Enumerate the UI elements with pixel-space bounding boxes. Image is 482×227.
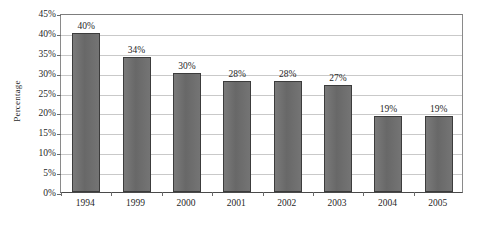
bar[interactable] [223, 81, 251, 192]
bar[interactable] [274, 81, 302, 192]
y-axis-tick-label: 45% [18, 9, 56, 19]
y-axis-tick-mark [57, 75, 61, 76]
x-axis-tick-label: 2005 [412, 198, 464, 209]
bar[interactable] [123, 57, 151, 192]
y-axis-tick-label: 5% [18, 168, 56, 178]
bar-value-label: 28% [264, 69, 312, 80]
bar[interactable] [425, 116, 453, 192]
y-axis-tick-mark [57, 154, 61, 155]
x-axis-tick-label: 2000 [160, 198, 212, 209]
y-axis-tick-label-group: 0%5%10%15%20%25%30%35%40%45% [18, 14, 56, 193]
bar[interactable] [374, 116, 402, 192]
y-axis-tick-label: 0% [18, 188, 56, 198]
bar-value-label: 19% [415, 104, 463, 115]
y-axis-tick-mark [57, 134, 61, 135]
bar-chart-figure: Percentage 0%5%10%15%20%25%30%35%40%45% … [0, 0, 482, 227]
y-axis-tick-mark [57, 15, 61, 16]
x-axis-tick-label: 2004 [361, 198, 413, 209]
x-axis-tick-label: 2001 [210, 198, 262, 209]
bar[interactable] [324, 85, 352, 192]
bar-value-label: 28% [213, 69, 261, 80]
y-axis-tick-label: 25% [18, 89, 56, 99]
bar-value-label: 34% [113, 45, 161, 56]
bar-value-label: 19% [364, 104, 412, 115]
y-axis-tick-mark [57, 55, 61, 56]
y-axis-tick-mark [57, 95, 61, 96]
bar-value-label: 40% [62, 21, 110, 32]
x-axis-tick-label: 2002 [261, 198, 313, 209]
y-axis-tick-label: 30% [18, 69, 56, 79]
y-axis-tick-label: 10% [18, 148, 56, 158]
y-axis-tick-mark [57, 114, 61, 115]
x-axis-tick-label: 2003 [311, 198, 363, 209]
gridline [61, 75, 462, 76]
plot-area: 40%34%30%28%28%27%19%19% [60, 14, 463, 193]
gridline [61, 35, 462, 36]
y-axis-tick-label: 35% [18, 49, 56, 59]
y-axis-tick-mark [57, 35, 61, 36]
y-axis-tick-label: 15% [18, 128, 56, 138]
bar[interactable] [173, 73, 201, 192]
x-axis-tick-label-group: 19941999200020012002200320042005 [60, 196, 463, 216]
bar[interactable] [72, 33, 100, 192]
gridline [61, 95, 462, 96]
bar-value-label: 27% [314, 73, 362, 84]
y-axis-tick-label: 20% [18, 108, 56, 118]
x-axis-tick-label: 1999 [110, 198, 162, 209]
bar-value-label: 30% [163, 61, 211, 72]
y-axis-tick-mark [57, 174, 61, 175]
y-axis-tick-label: 40% [18, 29, 56, 39]
x-axis-tick-label: 1994 [59, 198, 111, 209]
